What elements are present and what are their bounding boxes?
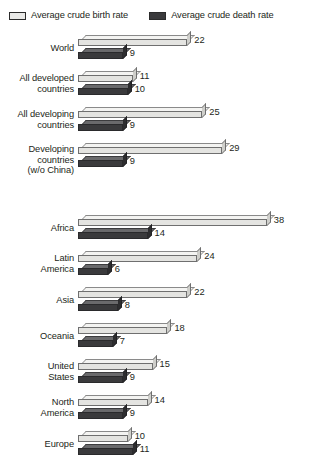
bar-death-rate: [78, 336, 113, 347]
category-label: UnitedStates: [0, 361, 74, 382]
bar-end-cap: [113, 332, 117, 347]
chart-row: Asia228: [0, 282, 309, 318]
bar-end-cap: [197, 247, 201, 262]
category-label: Asia: [0, 295, 74, 306]
bar-birth-rate: [78, 215, 267, 226]
bar-value-birth-rate: 18: [174, 324, 184, 333]
bar-birth-rate: [78, 431, 128, 442]
bar-front-face: [78, 52, 123, 59]
bar-front-face: [78, 88, 128, 95]
bar-pair: 3814: [78, 210, 309, 246]
bar-pair: 1110: [78, 66, 309, 102]
bar-value-death-rate: 9: [130, 121, 135, 130]
category-label: World: [0, 43, 74, 54]
bar-end-cap: [123, 152, 127, 167]
bar-pair: 149: [78, 390, 309, 426]
bar-front-face: [78, 160, 123, 167]
bar-end-cap: [123, 368, 127, 383]
bar-end-cap: [187, 31, 191, 46]
category-label: Africa: [0, 223, 74, 234]
bar-group-aggregate: World229All developedcountries1110All de…: [0, 30, 309, 182]
category-label: NorthAmerica: [0, 397, 74, 418]
bar-death-rate: [78, 48, 123, 59]
bar-pair: 1011: [78, 426, 309, 457]
bar-front-face: [78, 435, 128, 442]
category-label: All developedcountries: [0, 73, 74, 94]
bar-pair: 229: [78, 30, 309, 66]
bar-front-face: [78, 340, 113, 347]
bar-value-death-rate: 8: [125, 301, 130, 310]
bar-front-face: [78, 363, 153, 370]
bar-group-region: Africa3814LatinAmerica246Asia228Oceania1…: [0, 210, 309, 457]
bar-value-death-rate: 9: [130, 157, 135, 166]
bar-death-rate: [78, 408, 123, 419]
bar-death-rate: [78, 264, 108, 275]
bar-value-birth-rate: 10: [135, 432, 145, 441]
bar-end-cap: [222, 139, 226, 154]
bar-value-birth-rate: 25: [209, 108, 219, 117]
bar-pair: 259: [78, 102, 309, 138]
legend-label-death-rate: Average crude death rate: [171, 11, 273, 20]
bar-value-death-rate: 14: [155, 229, 165, 238]
bar-birth-rate: [78, 287, 187, 298]
bar-end-cap: [153, 355, 157, 370]
bar-end-cap: [187, 283, 191, 298]
chart-row: World229: [0, 30, 309, 66]
bar-birth-rate: [78, 251, 197, 262]
bar-end-cap: [148, 391, 152, 406]
bar-end-cap: [108, 260, 112, 275]
chart-row: LatinAmerica246: [0, 246, 309, 282]
bar-front-face: [78, 412, 123, 419]
chart-row: Developingcountries(w/o China)299: [0, 138, 309, 182]
bar-end-cap: [123, 44, 127, 59]
bar-front-face: [78, 232, 148, 239]
bar-value-death-rate: 10: [135, 85, 145, 94]
chart-row: Europe1011: [0, 426, 309, 457]
bar-front-face: [78, 147, 222, 154]
bar-value-birth-rate: 15: [160, 360, 170, 369]
chart-row: NorthAmerica149: [0, 390, 309, 426]
bar-value-death-rate: 11: [140, 445, 150, 454]
chart-row: UnitedStates159: [0, 354, 309, 390]
category-label: LatinAmerica: [0, 253, 74, 274]
bar-front-face: [78, 376, 123, 383]
bar-value-death-rate: 9: [130, 409, 135, 418]
bar-birth-rate: [78, 107, 202, 118]
category-label: Europe: [0, 439, 74, 450]
bar-value-death-rate: 9: [130, 49, 135, 58]
bar-end-cap: [128, 427, 132, 442]
bar-end-cap: [167, 319, 171, 334]
bar-birth-rate: [78, 71, 133, 82]
bar-birth-rate: [78, 323, 167, 334]
bar-value-birth-rate: 11: [140, 72, 150, 81]
bar-front-face: [78, 448, 133, 455]
bar-death-rate: [78, 228, 148, 239]
bar-value-death-rate: 9: [130, 373, 135, 382]
category-label: Oceania: [0, 331, 74, 342]
bar-birth-rate: [78, 35, 187, 46]
chart-row: All developedcountries1110: [0, 66, 309, 102]
bar-front-face: [78, 219, 267, 226]
category-label: All developingcountries: [0, 109, 74, 130]
bar-pair: 246: [78, 246, 309, 282]
bar-value-death-rate: 7: [120, 337, 125, 346]
bar-birth-rate: [78, 143, 222, 154]
dark-swatch-icon: [149, 12, 166, 20]
bar-front-face: [78, 124, 123, 131]
bar-end-cap: [133, 440, 137, 455]
bar-front-face: [78, 75, 133, 82]
bar-end-cap: [133, 67, 137, 82]
bar-value-birth-rate: 29: [229, 144, 239, 153]
chart-row: Africa3814: [0, 210, 309, 246]
bar-end-cap: [148, 224, 152, 239]
legend-entry-death-rate: Average crude death rate: [149, 11, 273, 20]
bar-death-rate: [78, 372, 123, 383]
bar-death-rate: [78, 84, 128, 95]
bar-end-cap: [123, 404, 127, 419]
bar-front-face: [78, 111, 202, 118]
bar-front-face: [78, 39, 187, 46]
bar-front-face: [78, 327, 167, 334]
bar-value-death-rate: 6: [115, 265, 120, 274]
chart-row: All developingcountries259: [0, 102, 309, 138]
bar-value-birth-rate: 14: [155, 396, 165, 405]
